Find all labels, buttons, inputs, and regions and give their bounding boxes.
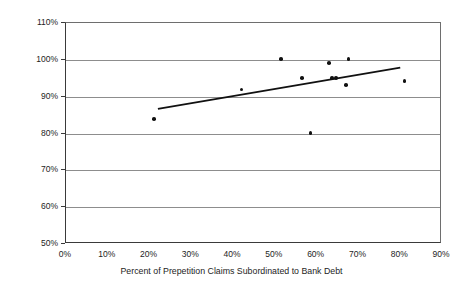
x-axis-tick-label: 60% [296,250,336,259]
y-axis-tick-label: 110% [18,18,58,27]
scatter-chart: Present Value of Recoveries 50%60%70%80%… [0,0,463,294]
plot-area [65,22,441,243]
data-point [330,76,334,80]
y-axis-tick-mark [61,243,65,244]
x-axis-tick-label: 70% [337,250,377,259]
x-axis-tick-label: 30% [170,250,210,259]
y-axis-tick-label: 90% [18,92,58,101]
trendline [66,23,442,244]
y-axis-tick-label: 100% [18,55,58,64]
x-axis-tick-label: 50% [254,250,294,259]
data-point [403,79,407,83]
trendline-segment [158,68,400,109]
y-axis-title: Present Value of Recoveries [4,0,18,28]
x-axis-tick-label: 10% [87,250,127,259]
data-point [279,57,283,61]
y-axis-tick-label: 80% [18,129,58,138]
x-axis-tick-label: 80% [379,250,419,259]
x-axis-tick-label: 20% [129,250,169,259]
y-axis-tick-label: 60% [18,202,58,211]
x-axis-tick-label: 40% [212,250,252,259]
data-point [300,76,304,80]
y-axis-tick-label: 70% [18,165,58,174]
data-point [347,57,351,61]
y-axis-tick-label: 50% [18,239,58,248]
x-axis-tick-label: 0% [45,250,85,259]
data-point [334,76,338,80]
data-point [344,83,348,87]
data-point [152,117,156,121]
data-point [327,61,331,65]
chart-title [0,0,463,7]
data-point [309,131,313,135]
x-axis-tick-label: 90% [421,250,461,259]
x-axis-title: Percent of Prepetition Claims Subordinat… [0,266,463,277]
